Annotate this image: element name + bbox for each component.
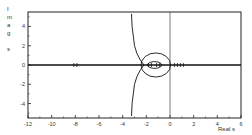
svg-text:-6: -6 <box>97 121 102 127</box>
svg-text:-4: -4 <box>120 121 125 127</box>
svg-text:-2: -2 <box>20 81 25 87</box>
y-axis-label-letter: I <box>7 6 9 12</box>
svg-text:6: 6 <box>239 121 242 127</box>
y-axis-label-letter: m <box>7 14 12 20</box>
svg-text:-8: -8 <box>73 121 78 127</box>
locus-branches <box>28 14 241 116</box>
svg-text:-12: -12 <box>24 121 32 127</box>
svg-text:0: 0 <box>168 121 171 127</box>
svg-text:-2: -2 <box>144 121 149 127</box>
y-axis-label-letter: s <box>7 46 10 52</box>
svg-text:2: 2 <box>192 121 195 127</box>
svg-text:-10: -10 <box>48 121 56 127</box>
y-axis-label-letter: a <box>7 22 10 28</box>
svg-text:-4: -4 <box>20 101 25 107</box>
svg-text:0: 0 <box>22 62 25 68</box>
svg-text:4: 4 <box>22 23 25 29</box>
svg-text:2: 2 <box>22 43 25 49</box>
y-axis-label-letter: g <box>7 30 10 36</box>
root-locus-chart: -12-10-8-6-4-20246-4-2024 Real s <box>0 0 252 135</box>
x-axis-label: Real s <box>218 126 235 132</box>
